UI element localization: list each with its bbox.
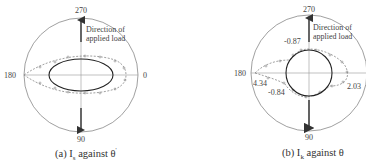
tick-270: 270 <box>75 6 87 15</box>
tick-90: 90 <box>305 133 313 142</box>
tick-180: 180 <box>4 71 16 80</box>
tick-270: 270 <box>303 5 315 14</box>
caption-b: (b) Ik against θ <box>282 147 344 161</box>
value-label-right: 2.03 <box>347 82 361 91</box>
figure-canvas: 270 90 180 0 Direction of applied load 2… <box>0 0 366 167</box>
value-label-lower-left: -0.84 <box>268 88 285 97</box>
polar-chart-a: 270 90 180 0 Direction of applied load <box>4 6 147 144</box>
caption-a: (a) Is against θ' <box>55 147 117 162</box>
caption-a-suffix: against θ <box>76 148 116 159</box>
caption-b-suffix: against θ <box>304 147 344 158</box>
value-label-top: -0.87 <box>284 37 301 46</box>
annotation-line1: Direction of <box>313 23 352 32</box>
caption-b-prefix: (b) I <box>282 147 300 158</box>
measured-curve <box>24 56 126 93</box>
annotation-line1: Direction of <box>86 25 125 34</box>
value-label-left: 4.34 <box>253 79 267 88</box>
caption-a-prefix: (a) I <box>55 148 73 159</box>
annotation-line2: applied load <box>86 34 125 43</box>
caption-a-superscript: ' <box>116 147 117 153</box>
annotation-line2: applied load <box>313 32 352 41</box>
tick-0: 0 <box>143 71 147 80</box>
tick-180: 180 <box>234 69 246 78</box>
polar-chart-b: 270 90 180 Direction of applied load -0.… <box>234 5 366 142</box>
tick-90: 90 <box>77 135 85 144</box>
